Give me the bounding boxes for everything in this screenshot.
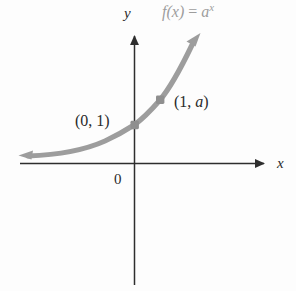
point-label-0-1: (0, 1): [75, 113, 110, 129]
point-label-1-a-lead: (1,: [174, 93, 195, 110]
function-operator: =: [184, 3, 201, 20]
function-expression-label: f(x) = ax: [162, 4, 214, 20]
x-axis-label: x: [277, 156, 284, 171]
point-label-1-a: (1, a): [174, 94, 209, 110]
point-marker-1-a: [156, 96, 164, 104]
function-prefix: f(x): [162, 3, 184, 20]
origin-label: 0: [114, 172, 122, 187]
graph-canvas: [0, 0, 296, 291]
exponential-function-figure: y x 0 f(x) = ax (0, 1) (1, a): [0, 0, 296, 291]
y-axis-label: y: [124, 6, 131, 21]
point-marker-0-1: [131, 121, 139, 129]
point-label-1-a-close: ): [203, 93, 208, 110]
curve-right-arrowhead: [187, 33, 201, 47]
curve-left-arrowhead: [19, 151, 34, 160]
exponential-curve: [28, 45, 192, 156]
function-exponent: x: [209, 1, 214, 13]
